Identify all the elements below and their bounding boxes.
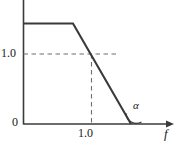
response-curve (24, 24, 132, 125)
x-axis-tick-label-1.0: 1.0 (78, 127, 93, 139)
x-axis-name-label: f (164, 127, 168, 140)
origin-label: 0 (12, 116, 18, 128)
angle-alpha-label: α (133, 100, 139, 111)
y-axis-tick-label-1.0: 1.0 (1, 47, 16, 59)
graph-figure: 1.0 0 1.0 f α (0, 0, 177, 152)
